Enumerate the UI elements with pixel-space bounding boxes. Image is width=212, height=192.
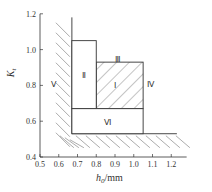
region-label-iii: Ⅲ	[115, 55, 121, 64]
region-label-i: Ⅰ	[114, 81, 116, 90]
x-tick-label: 1.0	[129, 160, 139, 169]
y-tick-label: 0.8	[26, 81, 36, 90]
boundary-hatch	[60, 136, 74, 148]
region-label-v: Ⅴ	[51, 80, 57, 89]
x-tick-label: 0.6	[54, 160, 64, 169]
y-tick-label: 0.6	[26, 117, 36, 126]
x-tick-label: 0.7	[73, 160, 83, 169]
x-tick-label: 0.5	[35, 160, 45, 169]
x-tick-label: 1.1	[148, 160, 158, 169]
region-i	[96, 62, 143, 109]
y-axis-title: Kt	[5, 68, 18, 79]
diagram: 0.50.60.70.80.91.01.11.20.40.60.81.01.2h…	[0, 0, 212, 192]
region-label-iv: Ⅳ	[147, 80, 155, 89]
x-axis-title: h0/mm	[96, 172, 123, 185]
y-tick-label: 0.4	[26, 153, 36, 162]
region-label-vi: Ⅵ	[104, 118, 111, 127]
x-tick-label: 1.2	[166, 160, 176, 169]
x-tick-label: 0.9	[110, 160, 120, 169]
region-label-ii: Ⅱ	[82, 71, 86, 80]
y-tick-label: 1.2	[26, 10, 36, 19]
x-tick-label: 0.8	[91, 160, 101, 169]
y-tick-label: 1.0	[26, 46, 36, 55]
